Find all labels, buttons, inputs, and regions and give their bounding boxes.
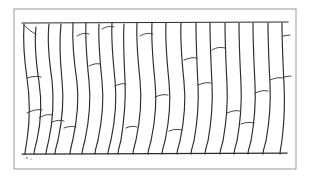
figure-root — [0, 0, 310, 180]
ink-speck — [26, 157, 28, 159]
tissue-line-drawing — [0, 0, 310, 180]
ink-speck — [30, 158, 31, 159]
